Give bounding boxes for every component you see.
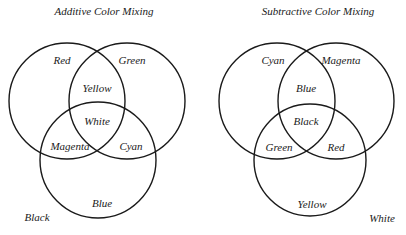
subtractive-label-blue: Blue (296, 83, 316, 94)
subtractive-label-yellow: Yellow (298, 199, 327, 210)
subtractive-label-black: Black (293, 116, 318, 127)
additive-label-blue: Blue (92, 198, 112, 209)
additive-label-red: Red (53, 55, 70, 66)
subtractive-label-green: Green (265, 142, 292, 153)
additive-title: Additive Color Mixing (55, 6, 154, 17)
subtractive-label-cyan: Cyan (261, 55, 284, 66)
venn-diagrams (0, 0, 406, 235)
subtractive-title: Subtractive Color Mixing (262, 6, 374, 17)
additive-label-cyan: Cyan (119, 141, 142, 152)
additive-label-magenta: Magenta (50, 141, 89, 152)
additive-label-yellow: Yellow (83, 83, 112, 94)
subtractive-label-magenta: Magenta (321, 55, 360, 66)
additive-background-label: Black (24, 212, 49, 223)
subtractive-background-label: White (369, 213, 395, 224)
subtractive-label-red: Red (327, 142, 344, 153)
color-mixing-figure: Additive Color Mixing Red Green Yellow W… (0, 0, 406, 235)
additive-label-white: White (84, 116, 110, 127)
additive-label-green: Green (118, 55, 145, 66)
